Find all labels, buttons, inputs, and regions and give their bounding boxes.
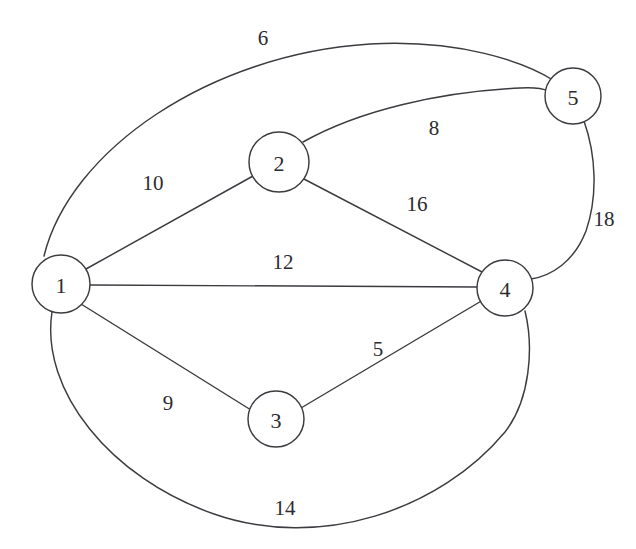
weighted-graph-figure: 6 8 10 16 12 18 5 9 14 1 2 3 [0, 0, 636, 549]
node-4[interactable]: 4 [477, 260, 533, 316]
edge-3-4[interactable] [301, 300, 483, 408]
node-3-label: 3 [271, 408, 282, 433]
node-1[interactable]: 1 [32, 255, 90, 313]
edge-weight-1-4: 12 [273, 250, 294, 274]
edge-weight-1-4-lower: 14 [275, 496, 297, 520]
edge-weight-1-2: 10 [143, 171, 164, 195]
node-2[interactable]: 2 [249, 132, 309, 192]
edge-weight-1-5: 6 [258, 26, 269, 50]
node-5[interactable]: 5 [545, 68, 601, 124]
edge-weight-5-4: 18 [594, 207, 615, 231]
node-3[interactable]: 3 [248, 391, 304, 447]
edge-label-layer: 6 8 10 16 12 18 5 9 14 [143, 26, 615, 520]
edge-2-4[interactable] [302, 178, 484, 273]
edge-weight-1-3: 9 [163, 391, 174, 415]
edge-weight-3-4: 5 [373, 337, 384, 361]
edge-1-4[interactable] [90, 285, 477, 287]
node-5-label: 5 [568, 85, 579, 110]
edge-2-5[interactable] [303, 88, 549, 142]
node-layer: 1 2 3 4 5 [32, 68, 601, 447]
edge-5-4[interactable] [531, 121, 594, 279]
edge-1-2[interactable] [86, 176, 253, 269]
node-4-label: 4 [500, 277, 511, 302]
node-1-label: 1 [56, 273, 67, 298]
edge-weight-2-4: 16 [407, 192, 428, 216]
edge-weight-2-5: 8 [429, 116, 440, 140]
graph-canvas: 6 8 10 16 12 18 5 9 14 1 2 3 [0, 0, 636, 549]
node-2-label: 2 [274, 151, 285, 176]
